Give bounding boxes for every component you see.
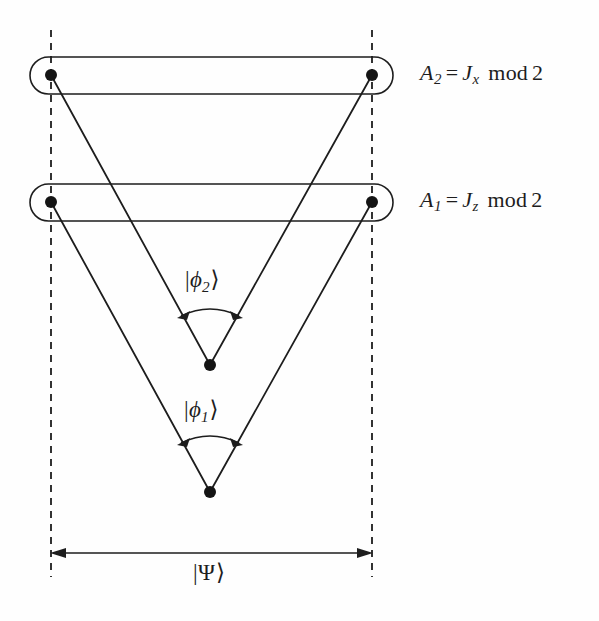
observable-label-a2: A2=Jxmod2: [420, 62, 543, 87]
psi-span-arrowhead-right: [357, 548, 373, 558]
diagram-canvas: [0, 0, 599, 621]
ket-phi1-subscript: 1: [201, 408, 209, 425]
psi-span-arrow-group: [50, 548, 373, 558]
ket-label-phi1: |ϕ1⟩: [184, 398, 219, 424]
node-dot-a1-right: [366, 196, 378, 208]
ket-phi2-subscript: 2: [202, 278, 210, 295]
edge-a2-left-to-phi2: [51, 75, 210, 365]
angle-arc-phi2: [181, 309, 239, 316]
observable-boxes-group: [30, 57, 393, 221]
psi-span-arrowhead-left: [50, 548, 66, 558]
observable-box-a2: [30, 57, 393, 94]
node-dot-phi2-vertex: [204, 359, 216, 371]
angle-arc-phi1: [181, 436, 239, 443]
label-a2-variable: A: [420, 60, 434, 85]
label-a1-variable: A: [420, 187, 434, 212]
ket-phi1-symbol: ϕ: [189, 397, 201, 422]
label-a2-modulus: 2: [528, 60, 543, 85]
label-a2-equals: =: [442, 60, 463, 85]
label-a2-rhs-variable: J: [462, 60, 472, 85]
edge-a1-right-to-phi1: [210, 202, 372, 492]
angle-arc-phi2-arrowhead-right: [230, 311, 243, 320]
ket-label-psi: |Ψ⟩: [193, 561, 225, 584]
node-dot-a1-left: [45, 196, 57, 208]
angle-arc-phi2-arrowhead-left: [177, 311, 190, 320]
ket-label-phi2: |ϕ2⟩: [185, 268, 220, 294]
node-dot-a2-left: [45, 69, 57, 81]
observable-label-a1: A1=Jzmod2: [420, 189, 542, 214]
angle-arc-phi1-arrowhead-left: [177, 438, 190, 447]
label-a1-rhs-variable: J: [462, 187, 472, 212]
node-dot-a2-right: [366, 69, 378, 81]
label-a1-mod-operator: mod: [479, 187, 528, 212]
angle-arc-phi2-group: [177, 309, 243, 320]
ket-psi-angle: ⟩: [215, 560, 225, 585]
ket-phi1-angle: ⟩: [209, 397, 219, 422]
node-dot-phi1-vertex: [204, 486, 216, 498]
label-a1-rhs-subscript: z: [472, 198, 478, 214]
label-a1-equals: =: [442, 187, 463, 212]
edge-a2-right-to-phi2: [210, 75, 372, 365]
ket-psi-symbol: Ψ: [198, 560, 215, 585]
label-a2-mod-operator: mod: [479, 60, 528, 85]
edge-a1-left-to-phi1: [51, 202, 210, 492]
angle-arc-phi1-group: [177, 436, 243, 447]
observable-box-a1: [30, 184, 393, 221]
ket-phi2-angle: ⟩: [210, 267, 220, 292]
angle-arc-phi1-arrowhead-right: [230, 438, 243, 447]
ket-phi2-symbol: ϕ: [190, 267, 202, 292]
label-a2-subscript: 2: [434, 71, 442, 87]
figure-root: A2=Jxmod2 A1=Jzmod2 |ϕ2⟩ |ϕ1⟩ |Ψ⟩: [0, 0, 599, 621]
label-a1-subscript: 1: [434, 198, 442, 214]
label-a1-modulus: 2: [527, 187, 542, 212]
